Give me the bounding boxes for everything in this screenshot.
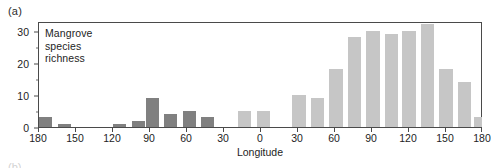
x-tick-label: 120 [103, 133, 121, 144]
y-tick-label: 30 [17, 26, 29, 37]
x-tick-label: 120 [399, 133, 417, 144]
bar [474, 117, 482, 127]
bar [385, 34, 398, 127]
bar [238, 111, 251, 127]
x-tick-label: 0 [257, 133, 263, 144]
x-tick-label: 30 [217, 133, 229, 144]
bar [183, 111, 196, 127]
x-tick-label: 90 [143, 133, 155, 144]
x-tick-label: 180 [29, 133, 47, 144]
x-axis-title: Longitude [38, 146, 482, 158]
bar [402, 31, 415, 127]
bar [146, 98, 159, 127]
bar [348, 37, 361, 127]
bar [366, 31, 379, 127]
y-tick-mark [34, 63, 38, 64]
next-panel-label: (b) [8, 161, 21, 168]
y-tick-label: 20 [17, 59, 29, 70]
bar [421, 24, 434, 127]
y-tick-mark [34, 95, 38, 96]
x-tick-label: 30 [291, 133, 303, 144]
bar [132, 121, 145, 127]
bar [201, 117, 214, 127]
bar [164, 114, 177, 127]
y-tick-label: 0 [23, 123, 29, 134]
x-tick-label: 90 [365, 133, 377, 144]
bar [329, 69, 342, 127]
x-tick-label: 150 [436, 133, 454, 144]
y-minor-tick-mark [36, 79, 38, 80]
y-tick-mark [34, 31, 38, 32]
x-tick-label: 150 [66, 133, 84, 144]
panel-label: (a) [8, 5, 22, 18]
bar [311, 98, 324, 127]
bar [39, 117, 52, 127]
y-axis: 0102030 [0, 22, 38, 128]
bar [439, 69, 452, 127]
plot-area: Mangrove species richness [38, 22, 482, 128]
y-tick-label: 10 [17, 91, 29, 102]
x-tick-label: 60 [328, 133, 340, 144]
bar [292, 95, 305, 127]
y-minor-tick-mark [36, 111, 38, 112]
bar [113, 124, 126, 127]
x-axis: 1801501209060300306090120150180 [38, 128, 482, 148]
y-minor-tick-mark [36, 47, 38, 48]
bar [257, 111, 270, 127]
x-tick-label: 180 [473, 133, 491, 144]
x-tick-label: 60 [180, 133, 192, 144]
bar [58, 124, 71, 127]
bar [458, 82, 471, 127]
bars-layer [39, 23, 481, 127]
